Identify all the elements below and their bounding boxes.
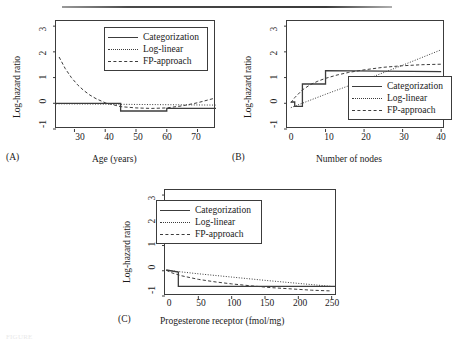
panel-b-xtick-40: 40 [429,132,453,142]
panel-b-xtick-0: 0 [279,132,303,142]
panel-c-tag: (C) [118,314,131,324]
panel-c: Log-hazard ratio 3 2 1 0 -1 0 50 100 150… [118,183,358,338]
legend-label-categorization: Categorization [195,205,251,216]
panel-a: Log-hazard ratio 3 2 1 0 -1 30 40 50 60 … [0,14,232,179]
panel-a-ytick-1: 1 [38,70,48,84]
legend-label-categorization: Categorization [143,32,199,43]
panel-b-ytick-2: 2 [269,46,279,60]
legend-label-categorization: Categorization [387,81,443,92]
panel-c-y-axis-label: Log-hazard ratio [122,221,132,283]
panel-a-xtick-50: 50 [126,132,150,142]
figure-caption-faint: FIGURE [6,333,32,341]
legend-row-fp-approach: FP-approach [352,104,447,116]
legend-key-dashed-icon [160,230,190,239]
panel-c-xtick-200: 200 [288,298,312,308]
panel-c-xtick-150: 150 [255,298,279,308]
legend-label-fp-approach: FP-approach [387,105,436,116]
panel-a-ytick-2: 2 [38,46,48,60]
panel-b-tag: (B) [232,152,245,162]
panel-c-xtick-250: 250 [320,298,344,308]
series-fp-approach [166,270,331,291]
legend-key-dotted-icon [160,218,190,227]
series-categorization [166,270,335,286]
panel-a-xtick-40: 40 [97,132,121,142]
legend-row-categorization: Categorization [108,31,203,43]
panel-a-xtick-70: 70 [184,132,208,142]
legend-key-solid-icon [352,82,382,91]
panel-c-x-axis-label: Progesterone receptor (fmol/mg) [160,316,285,326]
legend-key-dotted-icon [352,94,382,103]
panel-c-ytick-0: 0 [147,260,157,274]
panel-b-xtick-10: 10 [317,132,341,142]
legend-key-dashed-icon [352,106,382,115]
panel-b-y-axis-label: Log-hazard ratio [243,56,253,118]
legend-key-dashed-icon [108,57,138,66]
panel-c-xtick-100: 100 [222,298,246,308]
panel-b-x-axis-label: Number of nodes [316,154,382,164]
panel-a-x-axis-label: Age (years) [92,154,137,164]
panel-b-xtick-20: 20 [354,132,378,142]
panel-a-legend: Categorization Log-linear FP-approach [104,27,208,71]
panel-a-ytick-neg1: -1 [38,117,48,131]
panel-b-ytick-3: 3 [269,22,279,36]
legend-label-log-linear: Log-linear [387,93,427,104]
panel-c-legend: Categorization Log-linear FP-approach [156,200,262,244]
legend-label-log-linear: Log-linear [195,217,235,228]
panel-a-ytick-3: 3 [38,22,48,36]
panel-b: Log-hazard ratio 3 2 1 0 -1 0 10 20 30 4… [229,14,465,179]
legend-label-fp-approach: FP-approach [195,229,244,240]
legend-label-fp-approach: FP-approach [143,56,192,67]
legend-label-log-linear: Log-linear [143,44,183,55]
panel-a-xtick-60: 60 [155,132,179,142]
series-log-linear [56,104,216,105]
legend-key-dotted-icon [108,45,138,54]
legend-row-log-linear: Log-linear [352,92,447,104]
panel-c-xtick-50: 50 [189,298,213,308]
legend-row-fp-approach: FP-approach [108,55,203,67]
legend-row-categorization: Categorization [160,204,257,216]
legend-key-solid-icon [108,33,138,42]
panel-a-tag: (A) [6,152,19,162]
panel-a-ytick-0: 0 [38,94,48,108]
panel-b-xtick-30: 30 [392,132,416,142]
legend-key-solid-icon [160,206,190,215]
panel-c-xtick-0: 0 [157,298,181,308]
legend-row-categorization: Categorization [352,80,447,92]
series-log-linear [166,270,331,286]
legend-row-log-linear: Log-linear [160,216,257,228]
legend-row-fp-approach: FP-approach [160,228,257,240]
panel-b-legend: Categorization Log-linear FP-approach [348,76,452,120]
panel-b-ytick-1: 1 [269,70,279,84]
legend-row-log-linear: Log-linear [108,43,203,55]
panel-a-xtick-30: 30 [68,132,92,142]
header-rule [62,6,392,8]
figure-root: Log-hazard ratio 3 2 1 0 -1 30 40 50 60 … [0,0,465,344]
panel-b-ytick-0: 0 [269,94,279,108]
panel-b-ytick-neg1: -1 [269,117,279,131]
panel-c-ytick-neg1: -1 [147,283,157,297]
panel-a-y-axis-label: Log-hazard ratio [12,56,22,118]
